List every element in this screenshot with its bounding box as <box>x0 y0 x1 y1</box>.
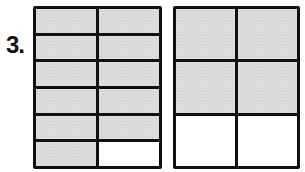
shaded-cell <box>36 142 96 166</box>
unshaded-cell <box>176 116 235 166</box>
shaded-cell <box>238 9 297 59</box>
shaded-cell <box>238 62 297 112</box>
problem-number: 3. <box>6 33 24 57</box>
shaded-cell <box>36 36 96 60</box>
shaded-cell <box>99 9 159 33</box>
unshaded-cell <box>238 116 297 166</box>
fraction-grid-left <box>33 6 162 169</box>
shaded-cell <box>99 116 159 140</box>
shaded-cell <box>36 9 96 33</box>
shaded-cell <box>99 62 159 86</box>
shaded-cell <box>176 62 235 112</box>
shaded-cell <box>36 89 96 113</box>
shaded-cell <box>99 89 159 113</box>
shaded-cell <box>36 116 96 140</box>
shaded-cell <box>176 9 235 59</box>
fraction-grid-right <box>173 6 300 169</box>
unshaded-cell <box>99 142 159 166</box>
shaded-cell <box>99 36 159 60</box>
shaded-cell <box>36 62 96 86</box>
